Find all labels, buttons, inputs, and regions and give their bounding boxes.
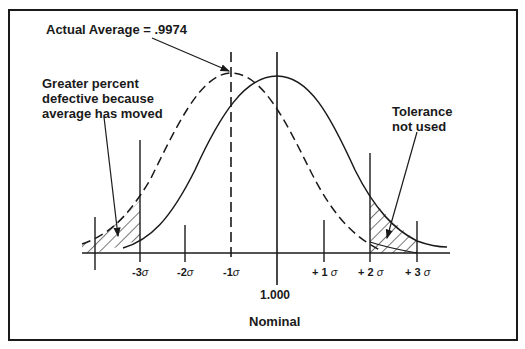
tick-label-plus-3-sigma: + 3 σ xyxy=(405,266,430,278)
tick-label-plus-2-sigma: + 2 σ xyxy=(358,266,383,278)
actual-average-arrow xyxy=(152,38,229,71)
tick-label-minus-3-sigma: -3σ xyxy=(132,266,148,278)
tolerance-not-used-label: Tolerance not used xyxy=(392,104,452,134)
greater-defective-line-1: Greater percent xyxy=(42,76,163,91)
tick-label-plus-1-sigma: + 1 σ xyxy=(312,266,337,278)
tolerance-line-1: Tolerance xyxy=(392,104,452,119)
tolerance-not-used-arrow xyxy=(387,132,417,238)
tolerance-line-2: not used xyxy=(392,119,452,134)
greater-defective-arrow xyxy=(104,117,118,236)
nominal-value-label: 1.000 xyxy=(260,288,290,302)
nominal-distribution-curve xyxy=(123,76,447,248)
greater-defective-line-3: average has moved xyxy=(42,106,163,121)
tick-label-minus-1-sigma: -1σ xyxy=(223,266,239,278)
greater-defective-label: Greater percent defective because averag… xyxy=(42,76,163,121)
greater-defective-line-2: defective because xyxy=(42,91,163,106)
actual-average-label: Actual Average = .9974 xyxy=(46,22,187,37)
nominal-axis-title: Nominal xyxy=(249,314,300,329)
tick-label-minus-2-sigma: -2σ xyxy=(177,266,193,278)
